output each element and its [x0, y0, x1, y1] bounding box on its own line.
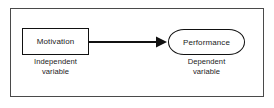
caption-dependent-line1: Dependent — [168, 57, 245, 67]
caption-dependent-variable: Dependent variable — [168, 57, 245, 76]
caption-dependent-line2: variable — [168, 67, 245, 77]
caption-independent-line2: variable — [22, 67, 89, 77]
arrow-head-icon — [156, 36, 167, 47]
node-independent-label: Motivation — [37, 37, 74, 46]
diagram-canvas: Motivation Performance Independent varia… — [0, 0, 274, 108]
node-dependent-variable[interactable]: Performance — [168, 29, 245, 55]
node-dependent-label: Performance — [183, 38, 230, 47]
arrow-motivation-to-performance — [88, 33, 170, 51]
caption-independent-variable: Independent variable — [22, 57, 89, 76]
node-independent-variable[interactable]: Motivation — [22, 28, 89, 55]
caption-independent-line1: Independent — [22, 57, 89, 67]
